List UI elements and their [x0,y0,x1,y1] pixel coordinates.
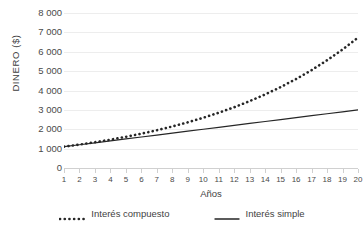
y-axis-tick-label: 3 000 [18,105,62,115]
legend-label: Interés simple [246,208,305,219]
x-axis-tick-mark [343,169,344,173]
legend-item[interactable]: Interés compuesto [59,208,169,219]
x-axis-tick-mark [157,169,158,173]
x-axis-tick-mark [265,169,266,173]
x-axis-tick-mark [250,169,251,173]
y-axis-tick-label: 0 [18,163,62,173]
x-axis-tick-mark [234,169,235,173]
x-axis-tick-mark [95,169,96,173]
y-axis-tick-label: 6 000 [18,47,62,57]
y-axis-tick-label: 7 000 [18,27,62,37]
solid-line-icon [214,209,240,217]
series-line-simple [64,110,358,147]
y-axis-tick-label: 5 000 [18,66,62,76]
y-axis-tick-label: 4 000 [18,86,62,96]
y-axis-tick-label: 1 000 [18,144,62,154]
plot-area [64,13,358,168]
x-axis-tick-mark [312,169,313,173]
chart-legend: Interés compuestoInterés simple [0,205,364,221]
y-axis-tick-labels: 01 0002 0003 0004 0005 0006 0007 0008 00… [18,8,62,168]
x-axis-tick-mark [172,169,173,173]
series-layer [64,13,358,168]
x-axis-tick-marks [64,169,358,173]
x-axis-tick-mark [203,169,204,173]
x-axis-tick-mark [141,169,142,173]
chart-container: DINERO ($) 01 0002 0003 0004 0005 0006 0… [0,0,364,227]
y-axis-tick-label: 8 000 [18,8,62,18]
x-axis-title: Años [64,188,358,199]
dotted-line-icon [59,209,85,217]
x-axis-tick-mark [281,169,282,173]
x-axis-tick-label: 20 [347,174,364,186]
x-axis-tick-labels: 1234567891011121314151617181920 [64,174,358,186]
legend-item[interactable]: Interés simple [214,208,305,219]
x-axis-tick-mark [327,169,328,173]
x-axis-tick-mark [219,169,220,173]
legend-label: Interés compuesto [91,208,169,219]
x-axis-tick-mark [296,169,297,173]
x-axis-tick-mark [64,169,65,173]
x-axis-tick-mark [110,169,111,173]
series-line-compound [64,38,358,147]
x-axis-tick-mark [188,169,189,173]
x-axis-tick-mark [126,169,127,173]
x-axis-tick-mark [79,169,80,173]
x-axis-tick-mark [358,169,359,173]
y-axis-tick-label: 2 000 [18,124,62,134]
